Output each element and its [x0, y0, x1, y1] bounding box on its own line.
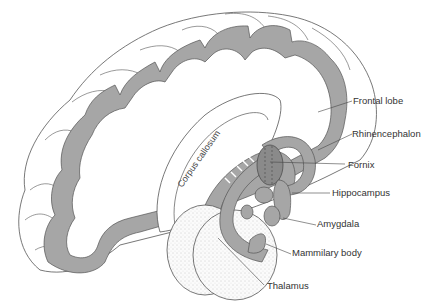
label-hippocampus: Hippocampus — [332, 187, 390, 198]
label-amygdala: Amygdala — [317, 218, 360, 229]
dark-oval — [257, 145, 283, 185]
limbic-system-diagram: Corpus callosum Frontal lobe Rhinencepha… — [0, 0, 426, 303]
label-fornix: Fornix — [348, 159, 375, 170]
label-frontal-lobe: Frontal lobe — [353, 95, 403, 106]
hippocampus-blob — [255, 187, 273, 203]
label-rhinencephalon: Rhinencephalon — [352, 128, 421, 139]
label-mammilary-body: Mammilary body — [292, 247, 362, 258]
label-thalamus: Thalamus — [267, 280, 309, 291]
amygdala — [264, 206, 280, 226]
small-nucleus — [241, 205, 253, 219]
